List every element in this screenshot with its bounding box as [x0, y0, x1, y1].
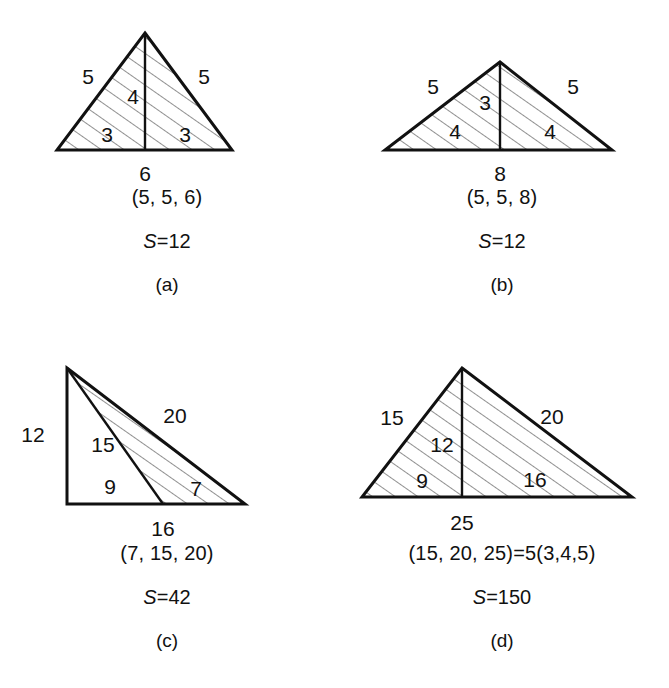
label-d-base-right-part: 16	[523, 468, 546, 491]
panel-c: 12 15 9 20 7 16 (7, 15, 20) S=42 (c)	[0, 344, 334, 688]
caption-d-index: (d)	[335, 630, 669, 652]
label-c-base-left-part: 9	[104, 475, 116, 498]
label-c-base: 16	[151, 517, 174, 540]
label-d-base: 25	[450, 511, 473, 534]
label-c-cevian: 15	[91, 433, 114, 456]
label-b-right-side: 5	[567, 75, 579, 98]
label-a-half-base-left: 3	[101, 123, 113, 146]
caption-a-triple: (5, 5, 6)	[0, 186, 334, 209]
label-a-altitude: 4	[127, 85, 139, 108]
area-value-c: =42	[157, 586, 191, 608]
triangle-d-interior	[362, 368, 632, 497]
panel-a: 5 5 4 3 3 6 (5, 5, 6) S=12 (a)	[0, 0, 334, 344]
label-d-base-left-part: 9	[416, 469, 428, 492]
area-value-b: =12	[492, 230, 526, 252]
caption-b-triple: (5, 5, 8)	[335, 186, 669, 209]
label-a-right-side: 5	[198, 65, 210, 88]
caption-c-index: (c)	[0, 630, 334, 652]
label-c-vertical-side: 12	[21, 423, 44, 446]
label-b-base: 8	[494, 162, 506, 185]
label-d-right-side: 20	[540, 405, 563, 428]
label-a-half-base-right: 3	[179, 123, 191, 146]
area-value-a: =12	[157, 230, 191, 252]
label-c-hypotenuse: 20	[163, 404, 186, 427]
caption-d-area: S=150	[335, 586, 669, 609]
label-b-half-base-left: 4	[449, 120, 461, 143]
area-symbol-c: S	[143, 586, 156, 608]
label-a-base: 6	[139, 162, 151, 185]
area-symbol-a: S	[143, 230, 156, 252]
label-c-short-side: 7	[190, 477, 202, 500]
caption-d-triple: (15, 20, 25)=5(3,4,5)	[335, 542, 669, 565]
label-b-half-base-right: 4	[544, 120, 556, 143]
caption-c-triple: (7, 15, 20)	[0, 542, 334, 565]
caption-a-area: S=12	[0, 230, 334, 253]
caption-a-index: (a)	[0, 274, 334, 296]
panel-b-drawing: 5 5 3 4 4 8	[335, 0, 669, 214]
label-d-left-side: 15	[380, 406, 403, 429]
area-symbol-b: S	[478, 230, 491, 252]
label-d-altitude: 12	[430, 433, 453, 456]
caption-b-area: S=12	[335, 230, 669, 253]
label-b-altitude: 3	[479, 91, 491, 114]
area-value-d: =150	[486, 586, 531, 608]
label-b-left-side: 5	[427, 75, 439, 98]
area-symbol-d: S	[473, 586, 486, 608]
panel-c-drawing: 12 15 9 20 7 16	[0, 344, 334, 558]
panel-b: 5 5 3 4 4 8 (5, 5, 8) S=12 (b)	[335, 0, 669, 344]
label-a-left-side: 5	[82, 65, 94, 88]
panel-d-drawing: 15 20 12 9 16 25	[335, 344, 669, 558]
panel-d: 15 20 12 9 16 25 (15, 20, 25)=5(3,4,5) S…	[335, 344, 669, 688]
caption-b-index: (b)	[335, 274, 669, 296]
panel-a-drawing: 5 5 4 3 3 6	[0, 0, 334, 214]
caption-c-area: S=42	[0, 586, 334, 609]
figure-root: 5 5 4 3 3 6 (5, 5, 6) S=12 (a) 5 5 3 4	[0, 0, 669, 688]
